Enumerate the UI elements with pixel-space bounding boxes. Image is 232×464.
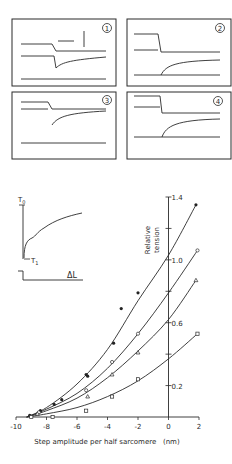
data-point-filled-circle xyxy=(120,307,123,310)
fit-curve-open-circle xyxy=(27,250,198,417)
x-ticks: -10-8-6-4-202 xyxy=(10,417,201,431)
panel-4: 4 xyxy=(127,92,231,159)
data-point-filled-circle xyxy=(112,342,115,345)
panel-3: 3 xyxy=(12,92,116,159)
x-tick-label: -6 xyxy=(74,423,82,431)
y-axis-label-line2: tension xyxy=(153,227,161,253)
x-tick-label: -4 xyxy=(104,423,112,431)
trace-length xyxy=(134,34,220,52)
data-point-triangle xyxy=(136,351,140,354)
data-point-filled-circle xyxy=(194,203,197,206)
inset-t0-label: T0 xyxy=(17,196,25,205)
trace-length xyxy=(134,96,220,113)
data-point-filled-circle xyxy=(136,291,139,294)
y-tick-label: 1.0 xyxy=(172,257,183,265)
trace-tension xyxy=(21,56,106,68)
trace-tension xyxy=(52,111,106,125)
x-tick-label: 0 xyxy=(166,423,170,431)
trace-length xyxy=(21,44,106,51)
data-point-filled-circle xyxy=(86,375,89,378)
trace-length xyxy=(21,102,106,109)
y-tick-label: 0.6 xyxy=(172,320,184,328)
data-point-square xyxy=(196,332,199,335)
data-point-square xyxy=(136,378,139,381)
x-tick-label: -2 xyxy=(135,423,142,431)
x-tick-label: -8 xyxy=(43,423,50,431)
data-point-square xyxy=(30,415,33,418)
y-tick-label: 1.4 xyxy=(172,194,184,202)
inset-dl-label: ΔL xyxy=(67,271,77,280)
y-axis-label-line1: Relative xyxy=(144,226,152,254)
scale-bars xyxy=(58,31,84,47)
figure: 1 2 3 4 T0 T1 xyxy=(0,0,232,464)
panel-1: 1 xyxy=(12,19,116,86)
inset-t1-label: T1 xyxy=(30,257,38,266)
data-point-open-circle xyxy=(110,360,113,363)
data-point-square xyxy=(85,409,88,412)
panel-number: 4 xyxy=(216,98,221,106)
inset-schematic: T0 T1 ΔL xyxy=(17,196,83,280)
data-point-square xyxy=(110,395,113,398)
x-tick-label: 2 xyxy=(197,423,201,431)
inset-recovery-curve xyxy=(24,213,82,258)
data-point-open-circle xyxy=(136,332,139,335)
panel-frame xyxy=(12,19,116,86)
x-axis-label: Step amplitude per half sarcomere (nm) xyxy=(34,438,180,446)
trace-tension xyxy=(161,60,220,75)
data-point-open-circle xyxy=(196,249,199,252)
data-point-triangle xyxy=(86,395,90,398)
data-point-open-circle xyxy=(85,389,88,392)
panel-number: 3 xyxy=(105,97,109,105)
panel-number: 1 xyxy=(105,25,109,33)
data-point-triangle xyxy=(194,278,198,281)
y-tick-label: 0.2 xyxy=(172,383,183,391)
trace-tension xyxy=(162,119,220,137)
x-tick-label: -10 xyxy=(10,423,21,431)
data-point-filled-circle xyxy=(53,403,56,406)
data-point-square xyxy=(51,415,54,418)
panel-number: 2 xyxy=(218,25,222,33)
panel-2: 2 xyxy=(127,19,231,86)
data-point-filled-circle xyxy=(60,398,63,401)
